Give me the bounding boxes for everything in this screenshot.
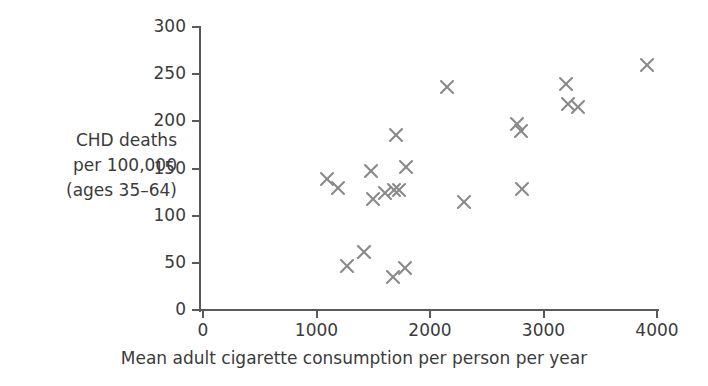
x-tick-label: 3000: [504, 322, 584, 339]
x-tick-label: 2000: [390, 322, 470, 339]
y-tick-label: 200: [130, 112, 186, 129]
y-tick-mark: [192, 215, 200, 217]
x-axis-title: Mean adult cigarette consumption per per…: [0, 348, 708, 368]
x-tick-label: 1000: [277, 322, 357, 339]
x-tick-mark: [429, 310, 431, 318]
x-tick-mark: [316, 310, 318, 318]
x-tick-label: 0: [163, 322, 243, 339]
y-tick-mark: [192, 168, 200, 170]
y-tick-label: 50: [130, 254, 186, 271]
x-tick-mark: [656, 310, 658, 318]
y-tick-label: 0: [130, 301, 186, 318]
y-tick-mark: [192, 309, 200, 311]
y-tick-label: 300: [130, 18, 186, 35]
x-tick-mark: [202, 310, 204, 318]
y-tick-mark: [192, 262, 200, 264]
y-tick-mark: [192, 73, 200, 75]
x-tick-label: 4000: [617, 322, 697, 339]
chd-cigarette-scatter-chart: CHD deaths per 100,000 (ages 35–64) 0501…: [0, 0, 708, 386]
y-tick-label: 150: [130, 160, 186, 177]
y-tick-label: 250: [130, 65, 186, 82]
x-tick-mark: [543, 310, 545, 318]
y-tick-label: 100: [130, 207, 186, 224]
y-tick-mark: [192, 120, 200, 122]
plot-area: [203, 27, 657, 310]
y-tick-mark: [192, 26, 200, 28]
